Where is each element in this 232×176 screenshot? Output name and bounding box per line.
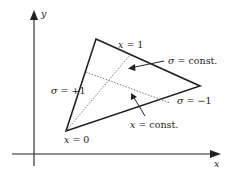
x-axis-arrow-icon [210,150,221,158]
diagram-canvas: y x x = 1 x = 0 σ = +1 σ = −1 σ = const.… [0,0,232,176]
x-const-arrow-icon [131,93,137,100]
label-x-eq-0: x = 0 [64,134,89,145]
label-sigma-const: σ = const. [168,55,217,66]
y-axis-label: y [40,8,47,19]
label-x-eq-1: x = 1 [118,39,143,50]
sigma-const-line [86,72,170,103]
x-const-pointer [133,96,145,116]
x-axis-label: x [214,158,220,169]
label-sigma-plus: σ = +1 [51,85,86,96]
y-axis: y [30,8,47,166]
triangle-element [66,39,200,131]
sigma-const-arrow-icon [128,64,136,71]
y-axis-arrow-icon [30,10,38,20]
label-x-const: x = const. [130,119,178,130]
x-axis: x [12,150,221,169]
label-sigma-minus: σ = −1 [177,95,212,106]
